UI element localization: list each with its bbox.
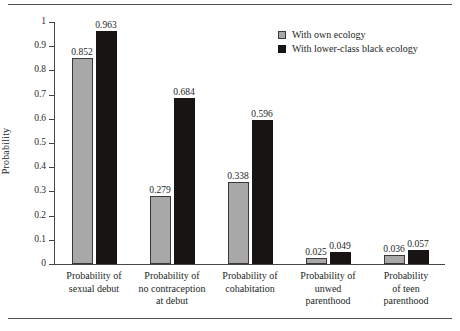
legend-item-lower-class-black-ecology[interactable]: With lower-class black ecology — [278, 43, 418, 55]
bar-group: 0.8520.963 — [55, 22, 133, 264]
bar-value-label: 0.684 — [173, 87, 194, 97]
chart-legend: With own ecology With lower-class black … — [278, 29, 418, 57]
bar-value-label: 0.036 — [383, 244, 404, 254]
bar-lower-class-black-ecology[interactable]: 0.684 — [174, 98, 195, 264]
bar-value-label: 0.338 — [227, 171, 248, 181]
bar-value-label: 0.279 — [149, 185, 170, 195]
y-tick-mark — [49, 167, 54, 168]
y-tick-label: 0.2 — [8, 211, 46, 221]
bar-value-label: 0.049 — [329, 241, 350, 251]
bar-group: 0.0360.057 — [367, 22, 445, 264]
y-tick-mark — [49, 240, 54, 241]
y-tick-mark — [49, 119, 54, 120]
legend-label-own-ecology: With own ecology — [292, 29, 365, 41]
x-axis-label-line: of teen — [358, 283, 454, 296]
x-axis-category-label: Probabilityof teenparenthood — [358, 270, 454, 308]
y-tick-label: 0.1 — [8, 235, 46, 245]
x-axis-label-line: at debut — [124, 295, 220, 308]
plot-area: 0.8520.9630.2790.6840.3380.5960.0250.049… — [55, 22, 445, 264]
y-tick-label: 0.8 — [8, 65, 46, 75]
y-tick-label: 0.4 — [8, 162, 46, 172]
bar-lower-class-black-ecology[interactable]: 0.596 — [252, 120, 273, 264]
y-tick-mark — [49, 46, 54, 47]
bar-group: 0.3380.596 — [211, 22, 289, 264]
y-tick-mark — [49, 216, 54, 217]
bar-lower-class-black-ecology[interactable]: 0.057 — [408, 250, 429, 264]
bar-value-label: 0.596 — [251, 109, 272, 119]
bar-own-ecology[interactable]: 0.852 — [72, 58, 93, 264]
bar-value-label: 0.963 — [95, 20, 116, 30]
y-tick-mark — [49, 22, 54, 23]
x-axis-label-line: Probability — [358, 270, 454, 283]
bar-value-label: 0.025 — [305, 247, 326, 257]
y-tick-mark — [49, 95, 54, 96]
bar-group: 0.0250.049 — [289, 22, 367, 264]
y-tick-label: 0.5 — [8, 138, 46, 148]
x-axis-line — [54, 264, 445, 265]
y-tick-label: 0.7 — [8, 90, 46, 100]
legend-swatch-icon-lower-class-black-ecology — [278, 45, 286, 53]
bar-own-ecology[interactable]: 0.025 — [306, 258, 327, 264]
bar-own-ecology[interactable]: 0.338 — [228, 182, 249, 264]
legend-swatch-icon-own-ecology — [278, 31, 286, 39]
bar-group: 0.2790.684 — [133, 22, 211, 264]
y-tick-mark — [49, 264, 54, 265]
grouped-bar-chart: Probability 00.10.20.30.40.50.60.70.80.9… — [0, 0, 460, 331]
y-tick-label: 0 — [8, 259, 46, 269]
y-tick-mark — [49, 191, 54, 192]
y-tick-label: 0.9 — [8, 41, 46, 51]
y-tick-label: 0.6 — [8, 114, 46, 124]
bar-value-label: 0.057 — [407, 239, 428, 249]
bar-lower-class-black-ecology[interactable]: 0.963 — [96, 31, 117, 264]
bar-lower-class-black-ecology[interactable]: 0.049 — [330, 252, 351, 264]
y-tick-label: 0.3 — [8, 186, 46, 196]
y-tick-label: 1 — [8, 17, 46, 27]
y-tick-mark — [49, 70, 54, 71]
legend-label-lower-class-black-ecology: With lower-class black ecology — [292, 43, 418, 55]
bar-own-ecology[interactable]: 0.279 — [150, 196, 171, 264]
y-tick-mark — [49, 143, 54, 144]
legend-item-own-ecology[interactable]: With own ecology — [278, 29, 418, 41]
bar-own-ecology[interactable]: 0.036 — [384, 255, 405, 264]
bar-value-label: 0.852 — [71, 47, 92, 57]
x-axis-label-line: parenthood — [358, 295, 454, 308]
